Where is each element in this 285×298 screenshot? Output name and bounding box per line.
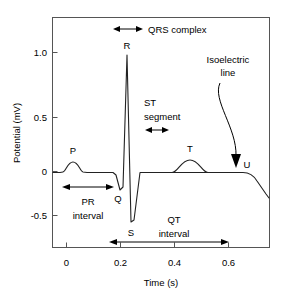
pr-arrow-head-right: [106, 184, 114, 190]
st-segment-label-line2: segment: [144, 111, 181, 122]
ecg-trace: [53, 55, 228, 222]
pr-interval-label-line2: interval: [73, 210, 104, 221]
x-tick-label-0.6: 0.6: [222, 257, 235, 268]
wave-label-u: U: [244, 159, 251, 170]
st-arrow-head-right: [162, 127, 169, 133]
qrs-arrow-head-right: [136, 26, 143, 32]
x-tick-label-0: 0: [64, 257, 69, 268]
wave-label-t: T: [187, 143, 193, 154]
st-segment-label-line1: ST: [144, 97, 156, 108]
ecg-trace-u-wave: [228, 173, 269, 199]
qrs-arrow-head-left: [113, 26, 120, 32]
isoelectric-pointer-curve: [218, 83, 236, 156]
qrs-complex-label: QRS complex: [148, 24, 207, 35]
x-tick-label-0.2: 0.2: [114, 257, 127, 268]
qt-interval-label-line2: interval: [159, 228, 190, 239]
pr-interval-label-line1: PR: [81, 196, 94, 207]
isoelectric-label-line1: Isoelectric: [207, 54, 250, 65]
st-arrow-head-left: [145, 127, 152, 133]
y-tick-label-0.5: 0.5: [34, 112, 47, 123]
y-tick-label-1.0: 1.0: [34, 47, 47, 58]
qt-arrow-head-right: [221, 239, 229, 245]
isoelectric-line-annotation: Isoelectric line: [207, 54, 250, 168]
isoelectric-label-line2: line: [221, 67, 236, 78]
wave-label-q: Q: [114, 193, 121, 204]
y-axis-title: Potential (mV): [11, 103, 22, 163]
st-segment-annotation: ST segment: [144, 97, 181, 133]
y-tick-label-0: 0: [42, 166, 47, 177]
qt-interval-label-line1: QT: [167, 214, 180, 225]
wave-label-s: S: [128, 227, 134, 238]
wave-label-r: R: [124, 40, 131, 51]
x-axis-ticks: [67, 243, 229, 248]
pr-interval-annotation: PR interval: [62, 184, 114, 221]
y-tick-label--0.5: -0.5: [31, 210, 47, 221]
y-axis-ticks: [53, 53, 58, 216]
ecg-figure: 1.0 0.5 0 -0.5 Potential (mV) 0 0.2 0.4 …: [0, 0, 285, 298]
x-tick-label-0.4: 0.4: [168, 257, 181, 268]
ecg-chart-svg: 1.0 0.5 0 -0.5 Potential (mV) 0 0.2 0.4 …: [0, 0, 285, 298]
x-axis-title: Time (s): [144, 277, 178, 288]
qt-arrow-head-left: [109, 239, 117, 245]
qrs-complex-annotation: QRS complex: [113, 24, 207, 35]
isoelectric-pointer-arrowhead: [231, 154, 241, 168]
pr-arrow-head-left: [62, 184, 70, 190]
ecg-trace-t-wave: [172, 160, 208, 173]
wave-label-p: P: [70, 145, 76, 156]
